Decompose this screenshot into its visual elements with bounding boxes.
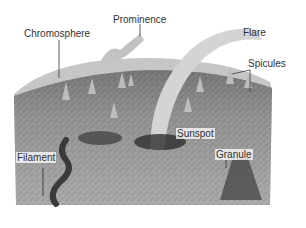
label-flare: Flare bbox=[243, 27, 266, 38]
label-chromosphere: Chromosphere bbox=[24, 28, 90, 39]
label-prominence: Prominence bbox=[113, 14, 166, 25]
label-spicules: Spicules bbox=[248, 58, 286, 69]
label-filament: Filament bbox=[16, 152, 56, 163]
solar-diagram: Chromosphere Prominence Flare Spicules S… bbox=[0, 0, 306, 228]
label-sunspot: Sunspot bbox=[176, 128, 215, 139]
label-granule: Granule bbox=[215, 149, 253, 160]
